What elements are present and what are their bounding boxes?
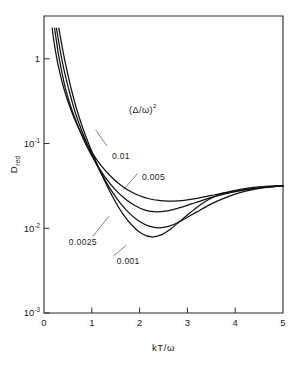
x-axis-ticks: 012345 <box>41 308 285 329</box>
y-axis-ticks: 110-110-210-3 <box>24 53 50 318</box>
y-axis-title: Dred <box>8 156 21 174</box>
y-tick-label: 10-3 <box>24 306 41 318</box>
x-tick-label: 2 <box>137 317 142 328</box>
x-tick-label: 3 <box>185 317 190 328</box>
legend-title-text: (Δ/ω)2 <box>129 102 157 115</box>
series-annotation-labels: 0.010.0050.00250.001 <box>69 151 165 266</box>
x-tick-label: 5 <box>280 317 285 328</box>
leader-line-0.001 <box>113 245 126 256</box>
leader-line-0.005 <box>123 173 137 189</box>
legend-title: (Δ/ω)2 <box>129 102 157 115</box>
series-label-0.005: 0.005 <box>142 172 165 182</box>
plot-frame <box>44 16 283 313</box>
data-curves <box>52 28 283 237</box>
x-tick-label: 0 <box>41 317 46 328</box>
y-axis-title-text: Dred <box>8 156 21 174</box>
x-axis-title-text: kT/ω <box>152 342 175 353</box>
series-label-0.01: 0.01 <box>112 151 130 161</box>
y-tick-label: 10-2 <box>24 222 41 234</box>
y-tick-label: 1 <box>35 53 40 64</box>
leader-line-0.0025 <box>93 216 109 236</box>
x-tick-label: 4 <box>233 317 238 328</box>
curve-0.005 <box>55 28 283 212</box>
series-label-0.001: 0.001 <box>117 256 140 266</box>
chart-canvas: 110-110-210-3 012345 0.010.0050.00250.00… <box>0 0 302 371</box>
curve-0.01 <box>52 28 283 201</box>
series-label-0.0025: 0.0025 <box>69 237 97 247</box>
x-tick-label: 1 <box>89 317 94 328</box>
leader-line-0.01 <box>96 130 107 146</box>
figure-container: 110-110-210-3 012345 0.010.0050.00250.00… <box>0 0 302 371</box>
curve-0.0025 <box>56 28 283 228</box>
annotation-leader-lines <box>93 130 138 256</box>
y-tick-label: 10-1 <box>24 137 41 149</box>
curve-0.001 <box>59 28 283 237</box>
